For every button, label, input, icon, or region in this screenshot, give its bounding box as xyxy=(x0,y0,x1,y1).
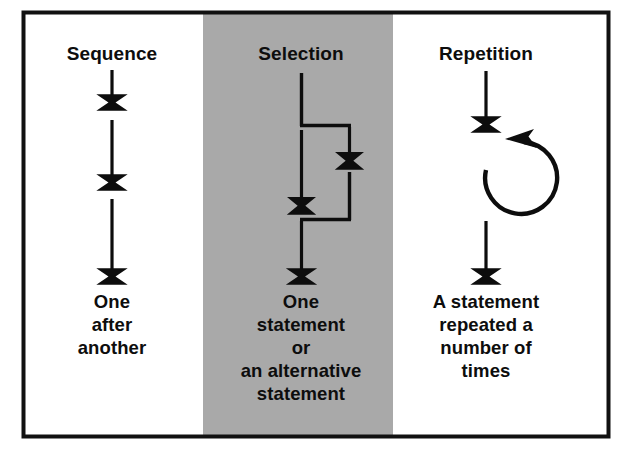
selection-caption-line-3: or xyxy=(292,337,311,358)
sequence-title: Sequence xyxy=(67,43,158,64)
sequence-caption-line-1: One xyxy=(94,291,130,312)
selection-title: Selection xyxy=(258,43,343,64)
control-structures-diagram: Sequence One after another Selection xyxy=(0,0,620,453)
sequence-caption-line-3: another xyxy=(78,337,147,358)
selection-caption-line-1: One xyxy=(283,291,319,312)
repetition-caption-line-2: repeated a xyxy=(439,314,533,335)
repetition-caption-line-3: number of xyxy=(440,337,532,358)
repetition-caption-line-1: A statement xyxy=(433,291,539,312)
diagram-canvas: Sequence One after another Selection xyxy=(0,0,620,453)
repetition-title: Repetition xyxy=(439,43,533,64)
repetition-caption-line-4: times xyxy=(462,360,511,381)
selection-caption-line-5: statement xyxy=(257,383,345,404)
selection-caption-line-2: statement xyxy=(257,314,345,335)
selection-caption-line-4: an alternative xyxy=(241,360,362,381)
sequence-caption-line-2: after xyxy=(92,314,133,335)
